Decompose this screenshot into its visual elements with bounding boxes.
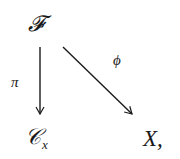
node-curve-Cx: 𝒞x [25, 126, 47, 148]
node-space-X: X, [143, 127, 163, 150]
label-phi: ϕ [113, 53, 121, 68]
label-pi: π [11, 75, 19, 90]
node-curve-base: 𝒞 [25, 124, 41, 149]
node-curve-subscript: x [42, 137, 48, 152]
node-sheaf-F: 𝓕 [28, 13, 44, 35]
arrow-phi [63, 47, 132, 114]
